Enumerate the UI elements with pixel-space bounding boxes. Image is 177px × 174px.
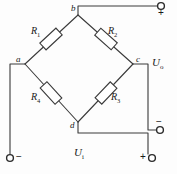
node-label-c: c (136, 55, 140, 64)
polarity-sign-output-plus: + (158, 8, 164, 18)
wire-c-to-output-minus (133, 64, 156, 130)
resistor-body-R4 (40, 82, 62, 104)
wire-d-to-input-plus (78, 122, 148, 154)
node-label-a: a (16, 55, 21, 64)
resistor-label-R3: R3 (111, 92, 120, 105)
terminal-input-minus[interactable] (7, 155, 14, 162)
input-voltage-label: Ui (74, 147, 84, 161)
wire-a-to-input-minus (10, 64, 25, 154)
node-label-b: b (71, 4, 76, 13)
wire-b-to-output-plus (78, 6, 157, 15)
polarity-sign-output-minus: − (156, 117, 162, 127)
polarity-sign-input-plus: + (140, 152, 146, 162)
terminal-input-plus[interactable] (149, 155, 156, 162)
resistor-label-R1: R1 (31, 26, 40, 39)
terminal-output-minus[interactable] (157, 127, 164, 134)
circuit-diagram: b a c d R1 R2 R3 R4 Uo Ui + − − + (0, 0, 177, 174)
resistor-label-R4: R4 (31, 92, 40, 105)
resistor-label-R2: R2 (108, 26, 117, 39)
polarity-sign-input-minus: − (16, 152, 22, 162)
output-voltage-label: Uo (152, 57, 163, 71)
circuit-svg (0, 0, 177, 174)
resistor-body-R1 (40, 28, 62, 50)
node-label-d: d (70, 121, 75, 130)
